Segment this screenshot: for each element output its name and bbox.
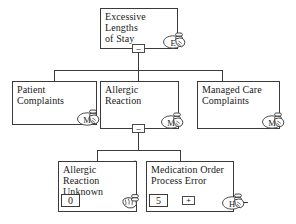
value-allergic-reaction-unknown[interactable]: 0 xyxy=(61,194,80,207)
hand-pointer-icon-allergic-reaction[interactable]: M xyxy=(160,107,186,133)
expand-toggle-medication-order-process-error[interactable]: + xyxy=(182,196,195,205)
hand-pointer-icon-medication-order-process-error[interactable]: H xyxy=(221,188,247,214)
value-medication-order-process-error[interactable]: 5 xyxy=(149,194,168,207)
node-label: Medication Order Process Error xyxy=(151,164,230,186)
hand-pointer-icon-managed-care-complaints[interactable]: M xyxy=(261,107,287,133)
badge-letter: E xyxy=(170,38,175,48)
hand-pointer-icon-patient-complaints[interactable]: M xyxy=(76,104,102,130)
diagram-canvas: Excessive Lengths of Stay – E Patient Co… xyxy=(0,0,296,224)
badge-letter: H xyxy=(229,199,235,209)
hand-pointer-icon-root[interactable]: E xyxy=(162,27,188,53)
collapse-toggle-root[interactable]: – xyxy=(132,44,145,53)
hand-fist-icon-allergic-reaction-unknown[interactable] xyxy=(119,189,145,215)
collapse-toggle-allergic-reaction[interactable]: – xyxy=(132,124,145,133)
node-label: Managed Care Complaints xyxy=(202,84,276,106)
node-label: Patient Complaints xyxy=(17,84,93,106)
node-label: Allergic Reaction xyxy=(105,84,175,106)
